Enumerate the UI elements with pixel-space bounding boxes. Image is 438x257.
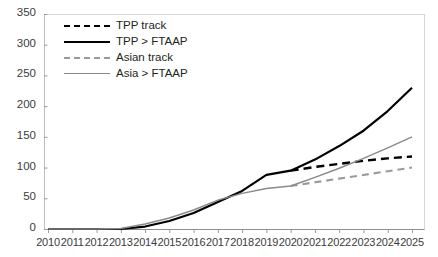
legend-label-asian-track: Asian track — [116, 51, 173, 63]
chart-figure: 350300250200150100500 201020112012201320… — [0, 0, 438, 257]
series-line — [48, 88, 412, 229]
legend-swatch-asia-ftaap — [64, 67, 110, 79]
series-line — [48, 137, 412, 229]
y-axis-label: 350 — [2, 6, 36, 18]
y-axis-label: 300 — [2, 37, 36, 49]
y-axis-label: 100 — [2, 160, 36, 172]
legend-item-asian-track: Asian track — [64, 49, 188, 64]
legend-swatch-asian-track — [64, 51, 110, 63]
y-axis-label: 150 — [2, 129, 36, 141]
y-axis-label: 200 — [2, 98, 36, 110]
series-line — [291, 168, 412, 186]
legend-label-tpp-track: TPP track — [116, 19, 166, 31]
legend-item-tpp-ftaap: TPP > FTAAP — [64, 33, 188, 48]
legend-item-asia-ftaap: Asia > FTAAP — [64, 65, 188, 80]
legend-swatch-tpp-track — [64, 19, 110, 31]
legend-item-tpp-track: TPP track — [64, 17, 188, 32]
legend-swatch-tpp-ftaap — [64, 35, 110, 47]
y-axis-label: 0 — [2, 221, 36, 233]
y-axis-label: 50 — [2, 190, 36, 202]
x-axis-label: 2025 — [395, 236, 429, 248]
chart-legend: TPP track TPP > FTAAP Asian track Asia >… — [64, 17, 188, 80]
legend-label-tpp-ftaap: TPP > FTAAP — [116, 35, 187, 47]
legend-label-asia-ftaap: Asia > FTAAP — [116, 67, 188, 79]
y-axis-label: 250 — [2, 67, 36, 79]
series-layer — [48, 88, 412, 229]
